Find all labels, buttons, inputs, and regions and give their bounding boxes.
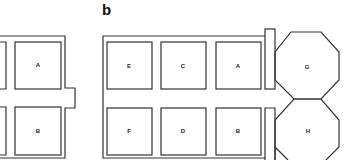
panel-b-room-H-label: H bbox=[306, 128, 310, 134]
panel-b-outer-wall bbox=[103, 36, 265, 158]
panel-b-room-H-lower-left-edge bbox=[275, 147, 288, 160]
panel-b-room-A-label: A bbox=[236, 63, 241, 69]
panel-b-room-B-label: B bbox=[236, 128, 241, 134]
panel-a-room-B-label: B bbox=[36, 128, 41, 134]
panel-b-room-E-label: E bbox=[127, 63, 131, 69]
panel-b-connector-bar-top bbox=[265, 29, 275, 89]
panel-b-connector-bar-bottom bbox=[265, 108, 275, 160]
panel-a-room-A-label: A bbox=[36, 62, 41, 68]
panel-b-room-D-label: D bbox=[181, 128, 186, 134]
panel-a-outer-wall bbox=[0, 36, 75, 158]
floor-plan-figure: b bbox=[0, 0, 359, 160]
floor-plan-drawing: A B E C A F D B G H bbox=[0, 0, 359, 160]
panel-b-room-C-label: C bbox=[181, 63, 186, 69]
panel-a-partial-room-bottom bbox=[0, 107, 6, 155]
panel-a bbox=[0, 36, 75, 158]
panel-b-room-G-label: G bbox=[305, 64, 310, 70]
panel-b-room-F-label: F bbox=[127, 128, 131, 134]
panel-a-partial-room-top bbox=[0, 42, 6, 89]
panel-b bbox=[103, 29, 339, 160]
